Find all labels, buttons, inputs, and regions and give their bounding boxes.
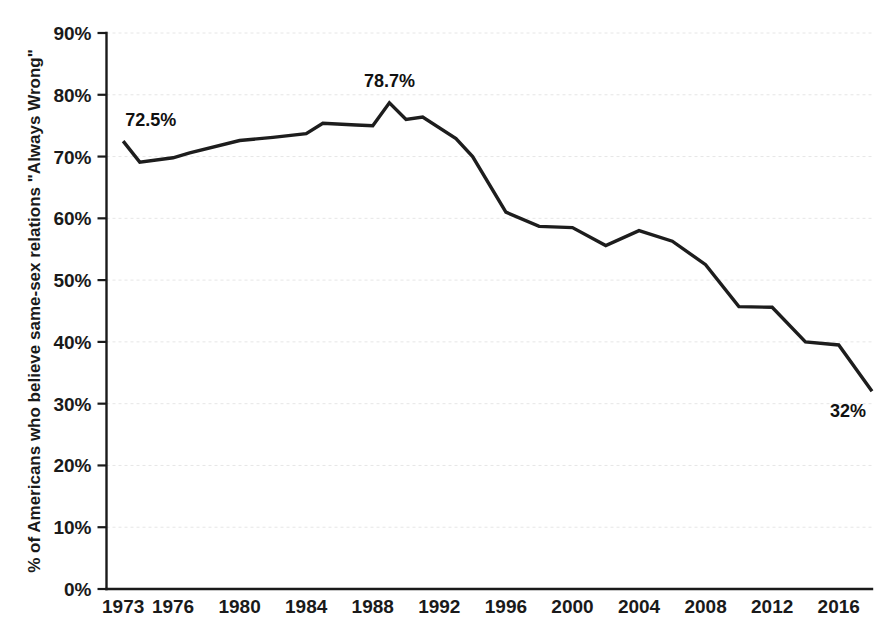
y-axis-title: % of Americans who believe same-sex rela…: [25, 49, 44, 572]
data-label: 72.5%: [125, 110, 176, 130]
chart-background: [0, 0, 880, 638]
y-tick-label: 60%: [53, 208, 91, 229]
x-tick-label: 1976: [152, 596, 194, 617]
x-tick-label: 1996: [485, 596, 527, 617]
data-label: 32%: [830, 401, 866, 421]
x-tick-label: 1980: [218, 596, 260, 617]
x-tick-label: 2000: [551, 596, 593, 617]
x-tick-label: 2016: [818, 596, 860, 617]
x-tick-label: 2008: [684, 596, 726, 617]
y-tick-label: 20%: [53, 455, 91, 476]
y-tick-label: 90%: [53, 23, 91, 44]
x-tick-label: 2012: [751, 596, 793, 617]
y-tick-label: 80%: [53, 85, 91, 106]
x-tick-label: 1984: [285, 596, 328, 617]
chart-container: 0%10%20%30%40%50%60%70%80%90% 1973197619…: [0, 0, 880, 638]
x-tick-label: 1992: [418, 596, 460, 617]
x-tick-label: 2004: [618, 596, 661, 617]
x-tick-label: 1973: [102, 596, 144, 617]
data-label: 78.7%: [364, 71, 415, 91]
y-tick-label: 50%: [53, 270, 91, 291]
y-tick-label: 10%: [53, 517, 91, 538]
x-tick-label: 1988: [352, 596, 394, 617]
y-tick-label: 70%: [53, 147, 91, 168]
y-tick-label: 0%: [64, 579, 92, 600]
line-chart: 0%10%20%30%40%50%60%70%80%90% 1973197619…: [0, 0, 880, 638]
y-tick-label: 40%: [53, 332, 91, 353]
y-tick-label: 30%: [53, 394, 91, 415]
